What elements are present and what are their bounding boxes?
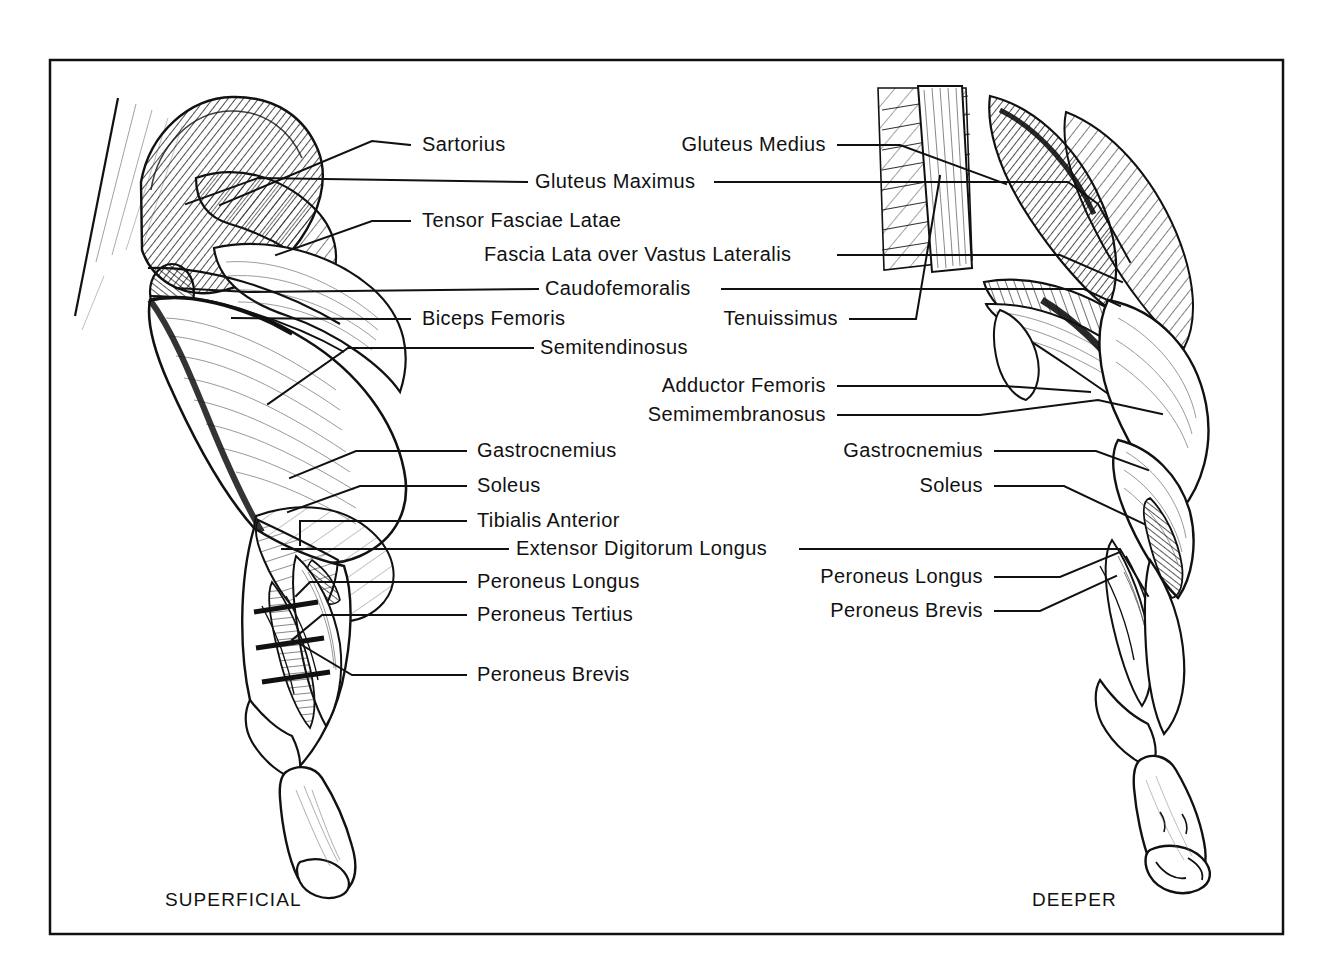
label-tibialis-anterior: Tibialis Anterior	[477, 509, 620, 531]
label-gastrocnemius-right: Gastrocnemius	[843, 439, 983, 461]
label-peroneus-longus-left: Peroneus Longus	[477, 570, 640, 592]
caption-superficial: SUPERFICIAL	[165, 889, 302, 910]
label-extensor-digitorum-longus: Extensor Digitorum Longus	[516, 537, 767, 559]
label-peroneus-brevis-right: Peroneus Brevis	[830, 599, 983, 621]
label-soleus-left: Soleus	[477, 474, 541, 496]
label-adductor-femoris: Adductor Femoris	[662, 374, 826, 396]
label-peroneus-brevis-left: Peroneus Brevis	[477, 663, 630, 685]
leader-biceps-femoris	[232, 318, 410, 319]
label-biceps-femoris: Biceps Femoris	[422, 307, 565, 329]
label-caudofemoralis: Caudofemoralis	[545, 277, 691, 299]
label-semitendinosus: Semitendinosus	[540, 336, 688, 358]
label-tenuissimus: Tenuissimus	[724, 307, 838, 329]
label-semimembranosus: Semimembranosus	[648, 403, 826, 425]
label-gastrocnemius-left: Gastrocnemius	[477, 439, 617, 461]
caption-deeper: DEEPER	[1032, 889, 1117, 910]
label-gluteus-medius: Gluteus Medius	[681, 133, 826, 155]
label-sartorius: Sartorius	[422, 133, 506, 155]
label-fascia-lata-over-vastus-lateralis: Fascia Lata over Vastus Lateralis	[484, 243, 791, 265]
anatomical-plate: SartoriusGluteus MaximusTensor Fasciae L…	[0, 0, 1321, 969]
label-gluteus-maximus: Gluteus Maximus	[535, 170, 696, 192]
label-tensor-fasciae-latae: Tensor Fasciae Latae	[422, 209, 621, 231]
label-peroneus-longus-right: Peroneus Longus	[820, 565, 983, 587]
label-peroneus-tertius: Peroneus Tertius	[477, 603, 633, 625]
label-soleus-right: Soleus	[919, 474, 983, 496]
